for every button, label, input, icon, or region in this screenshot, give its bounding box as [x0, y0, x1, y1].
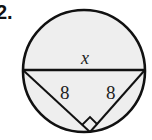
circle-diagram: x 8 8: [0, 0, 152, 140]
diameter-label: x: [80, 48, 89, 68]
geometry-figure: 2. x 8 8: [0, 0, 152, 140]
left-leg-label: 8: [60, 82, 70, 103]
right-leg-label: 8: [106, 82, 116, 103]
